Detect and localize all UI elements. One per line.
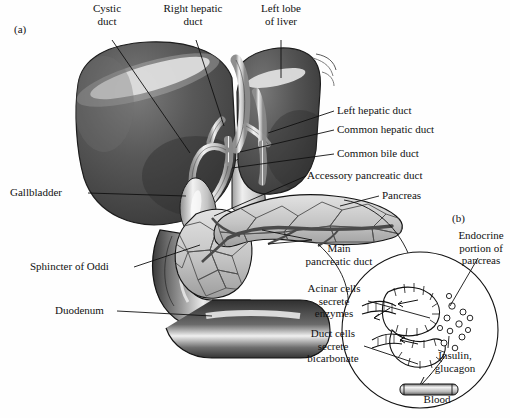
label-line: duct: [98, 15, 117, 27]
label-common-bile-duct: Common bile duct: [337, 147, 419, 159]
label-blood: Blood: [424, 393, 451, 405]
label-line: Sphincter of Oddi: [30, 260, 109, 272]
label-line: Pancreas: [382, 189, 421, 201]
label-line: of liver: [265, 15, 297, 27]
panel-b-marker: (b): [452, 212, 465, 225]
label-line: Cystic: [93, 2, 121, 14]
label-line: Main: [327, 242, 351, 254]
label-line: Duct cells: [311, 327, 355, 339]
label-accessory-pancreatic-duct: Accessory pancreatic duct: [307, 169, 422, 181]
label-duodenum: Duodenum: [55, 304, 104, 316]
label-line: Common bile duct: [337, 147, 419, 159]
label-left-hepatic-duct: Left hepatic duct: [337, 104, 412, 116]
label-line: pancreatic duct: [306, 255, 373, 267]
label-line: Endocrine: [458, 229, 503, 241]
label-line: Accessory pancreatic duct: [307, 169, 422, 181]
label-line: Left hepatic duct: [337, 104, 412, 116]
figure-container: (a) (b) CysticductRight hepaticductLeft …: [0, 0, 510, 418]
anatomy-illustration: (a) (b) CysticductRight hepaticductLeft …: [0, 0, 510, 418]
label-line: duct: [184, 15, 203, 27]
label-common-hepatic-duct: Common hepatic duct: [337, 123, 434, 135]
label-line: Acinar cells: [308, 282, 361, 294]
label-gallbladder: Gallbladder: [10, 186, 62, 198]
label-line: glucagon: [435, 362, 476, 374]
label-line: Common hepatic duct: [337, 123, 434, 135]
label-line: Insulin,: [438, 349, 472, 361]
label-sphincter-of-oddi: Sphincter of Oddi: [30, 260, 109, 272]
panel-a-marker: (a): [14, 23, 27, 36]
label-line: Blood: [424, 393, 451, 405]
label-insulin-glucagon: Insulin,glucagon: [435, 349, 476, 374]
label-line: secrete: [319, 295, 350, 307]
label-line: Gallbladder: [10, 186, 62, 198]
label-line: pancreas: [462, 254, 500, 266]
label-endocrine-portion-of-pancreas: Endocrineportion ofpancreas: [458, 229, 503, 266]
label-pancreas: Pancreas: [382, 189, 421, 201]
label-line: Right hepatic: [164, 2, 223, 14]
label-line: enzymes: [315, 307, 353, 319]
label-line: secrete: [318, 340, 349, 352]
label-line: portion of: [459, 242, 503, 254]
label-line: bicarbonate: [307, 352, 358, 364]
label-line: Duodenum: [55, 304, 104, 316]
label-line: Left lobe: [261, 2, 301, 14]
label-left-lobe-of-liver: Left lobeof liver: [261, 2, 301, 27]
